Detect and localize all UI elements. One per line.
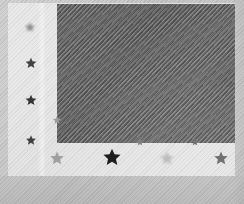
star-icon-edge-3 xyxy=(191,138,199,146)
flag-field-panel xyxy=(8,3,235,176)
star-icon-edge-1 xyxy=(53,116,62,125)
star-icon-bottom-4[interactable] xyxy=(214,151,229,166)
star-icon-bottom-3[interactable] xyxy=(160,151,175,166)
star-icon-left-1[interactable] xyxy=(25,22,36,33)
panel-seam xyxy=(38,3,46,176)
star-icon-left-2[interactable] xyxy=(25,57,37,69)
star-icon-bottom-2[interactable] xyxy=(103,148,122,167)
star-icon-left-4[interactable] xyxy=(26,135,37,146)
star-icon-left-3[interactable] xyxy=(25,94,37,106)
star-icon-bottom-1[interactable] xyxy=(50,151,65,166)
star-icon-edge-2 xyxy=(136,138,144,146)
image-canvas xyxy=(0,0,244,204)
canton-highlight-wedge xyxy=(139,87,235,143)
canton-block xyxy=(57,4,235,143)
